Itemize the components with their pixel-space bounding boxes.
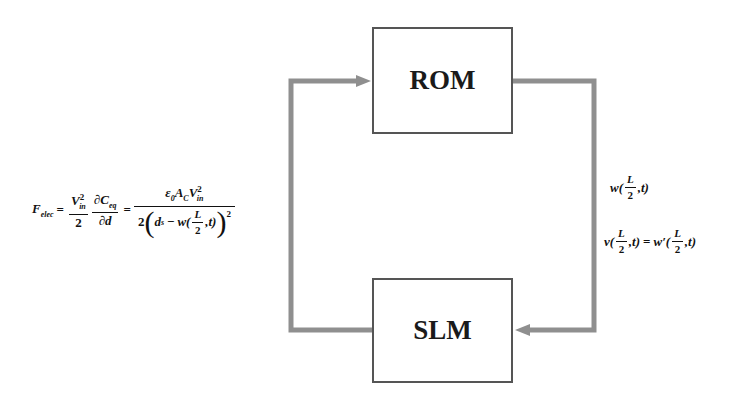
arrowhead-into-rom-icon <box>356 75 371 87</box>
electrostatic-force-equation: Felec = V2in 2 ∂Ceq ∂d = ε0ACV2in 2 ( ds… <box>32 170 235 250</box>
voltage-fraction: V2in 2 <box>69 190 88 230</box>
rom-to-slm-connector <box>512 81 594 330</box>
rom-block: ROM <box>372 27 513 134</box>
slm-to-rom-connector <box>291 81 372 330</box>
displacement-label: w( L2 ,t) <box>610 172 649 203</box>
capacitance-derivative: ∂Ceq ∂d <box>92 192 119 229</box>
velocity-label: v( L2 ,t) = w′( L2 ,t) <box>604 226 696 257</box>
rom-label: ROM <box>410 65 476 96</box>
slm-block: SLM <box>372 278 513 383</box>
slm-label: SLM <box>413 315 472 346</box>
arrowhead-into-slm-icon <box>515 324 530 336</box>
expanded-force-fraction: ε0ACV2in 2 ( ds − w( L2 ,t) )2 <box>136 182 233 238</box>
force-symbol: Felec <box>32 201 54 219</box>
